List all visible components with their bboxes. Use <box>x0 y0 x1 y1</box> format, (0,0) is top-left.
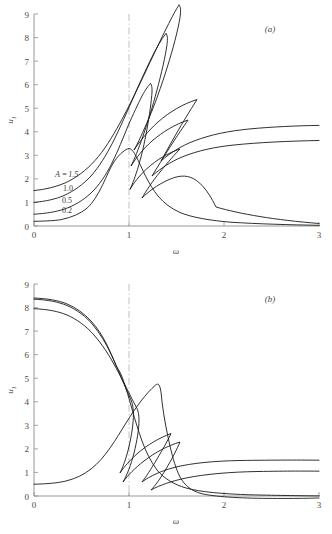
figure-container: 0 1 2 3 4 5 6 7 8 9 0 1 2 3 ω u1 (a) <box>0 0 332 534</box>
curve-label-0.5: 0.5 <box>62 196 72 205</box>
x-tick-label: 3 <box>317 500 322 510</box>
panel-label-a: (a) <box>265 24 276 34</box>
y-tick-label: 0 <box>25 492 30 502</box>
y-axis-title-sub: 1 <box>11 116 17 119</box>
y-tick-label: 8 <box>25 303 30 313</box>
x-tick-label: 1 <box>127 500 132 510</box>
x-tick-label: 2 <box>222 500 227 510</box>
y-tick-label: 5 <box>25 104 30 114</box>
y-axis-ticks <box>34 14 38 226</box>
x-tick-label: 3 <box>317 230 322 240</box>
x-tick-label: 2 <box>222 230 227 240</box>
curve-branch-3 <box>34 309 319 490</box>
y-tick-label: 6 <box>25 350 30 360</box>
curve-A-0.5-upper <box>34 84 151 215</box>
curve-A-0.5-lower <box>130 84 319 224</box>
x-axis-title: ω <box>173 246 179 256</box>
x-axis-title: ω <box>173 516 179 526</box>
curve-branch-2 <box>34 299 319 482</box>
y-tick-label: 7 <box>25 57 30 67</box>
y-tick-label: 5 <box>25 374 30 384</box>
y-tick-label: 6 <box>25 80 30 90</box>
y-tick-label: 4 <box>25 397 30 407</box>
panel-b-plot: 0 1 2 3 4 5 6 7 8 9 0 1 2 3 ω u1 (b) <box>0 268 332 534</box>
curve-A-1.0-lower <box>131 34 319 177</box>
curve-label-prefix-a: A =1.5 <box>54 170 78 179</box>
panel-b: 0 1 2 3 4 5 6 7 8 9 0 1 2 3 ω u1 (b) <box>0 268 332 534</box>
y-tick-label: 2 <box>25 444 30 454</box>
y-tick-label: 0 <box>25 222 30 232</box>
x-tick-label: 1 <box>127 230 132 240</box>
panel-a-plot: 0 1 2 3 4 5 6 7 8 9 0 1 2 3 ω u1 (a) <box>0 0 332 264</box>
y-axis-title-sub: 1 <box>11 386 17 389</box>
y-tick-label: 2 <box>25 174 30 184</box>
y-tick-label: 1 <box>25 198 30 208</box>
svg-text:u1: u1 <box>5 116 17 124</box>
y-axis-ticks <box>34 284 38 496</box>
y-tick-label: 8 <box>25 33 30 43</box>
curve-branch-1 <box>34 298 319 496</box>
x-tick-label: 0 <box>32 230 37 240</box>
y-tick-label: 9 <box>25 10 30 20</box>
y-tick-label: 3 <box>25 151 30 161</box>
y-axis-title: u1 <box>5 386 17 394</box>
curve-A-0.2 <box>34 149 319 226</box>
y-tick-label: 1 <box>25 468 30 478</box>
y-tick-label: 4 <box>25 127 30 137</box>
svg-text:u1: u1 <box>5 386 17 394</box>
panel-label-b: (b) <box>265 294 276 304</box>
curve-branch-4 <box>34 384 319 498</box>
curve-label-0.2: 0.2 <box>62 206 72 215</box>
y-tick-label: 9 <box>25 280 30 290</box>
y-axis-title: u1 <box>5 116 17 124</box>
panel-a: 0 1 2 3 4 5 6 7 8 9 0 1 2 3 ω u1 (a) <box>0 0 332 264</box>
y-tick-label: 7 <box>25 327 30 337</box>
x-tick-label: 0 <box>32 500 37 510</box>
curve-label-1.0: 1.0 <box>63 184 73 193</box>
y-tick-label: 3 <box>25 421 30 431</box>
curve-A-1.5-lower <box>134 5 319 161</box>
